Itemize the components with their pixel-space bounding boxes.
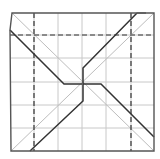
crease-pattern-diagram bbox=[0, 0, 160, 159]
pinwheel-fold-line bbox=[30, 84, 83, 151]
pinwheel-fold-line bbox=[10, 30, 82, 84]
